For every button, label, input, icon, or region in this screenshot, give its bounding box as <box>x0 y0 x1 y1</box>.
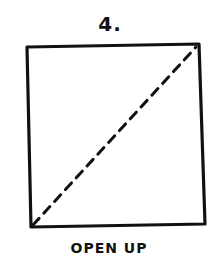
paper-square-diagram <box>0 0 212 271</box>
instruction-caption: OPEN UP <box>0 240 212 256</box>
fold-line-dashed <box>33 47 196 225</box>
